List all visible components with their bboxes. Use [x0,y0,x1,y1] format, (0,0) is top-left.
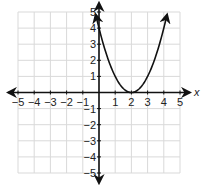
x-axis-label: x [193,86,200,98]
x-tick-label: −2 [60,96,73,108]
y-tick-label: −5 [83,167,96,179]
x-tick-label: 3 [145,96,151,108]
y-tick-label: 5 [90,6,96,18]
y-tick-label: −4 [83,151,96,163]
y-tick-label: −2 [83,119,96,131]
y-tick-label: 1 [90,70,96,82]
x-tick-label: −3 [44,96,57,108]
y-tick-label: 4 [90,22,96,34]
y-tick-label: −3 [83,135,96,147]
x-tick-label: 4 [161,96,167,108]
coordinate-plane: −5−4−3−2−112345 54321−1−2−3−4−5 x [0,0,204,187]
x-tick-labels: −5−4−3−2−112345 [12,96,183,108]
y-tick-label: 3 [90,38,96,50]
x-tick-label: −5 [12,96,25,108]
x-tick-label: 1 [112,96,118,108]
y-tick-label: −1 [83,103,96,115]
x-tick-label: −4 [28,96,41,108]
y-tick-label: 2 [90,54,96,66]
x-tick-label: 5 [177,96,183,108]
x-tick-label: 2 [128,96,134,108]
